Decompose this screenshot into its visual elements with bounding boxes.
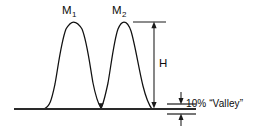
peak-label-m2-base: M: [112, 4, 122, 16]
height-label: H: [159, 58, 167, 70]
peak-label-m1-base: M: [62, 4, 72, 16]
peak-label-m2: M2: [112, 5, 126, 17]
peak-label-m2-subscript: 2: [122, 10, 126, 19]
mass-spec-resolution-figure: M1 M2 H 10% “Valley”: [0, 0, 253, 137]
peak-label-m1-subscript: 1: [72, 10, 76, 19]
peak-curve-m1: [43, 22, 101, 109]
valley-annotation-label: 10% “Valley”: [186, 99, 243, 109]
height-arrow-down-icon: [151, 102, 156, 109]
peak-label-m1: M1: [62, 5, 76, 17]
figure-canvas: [0, 0, 253, 137]
peak-curve-m2: [101, 22, 152, 109]
